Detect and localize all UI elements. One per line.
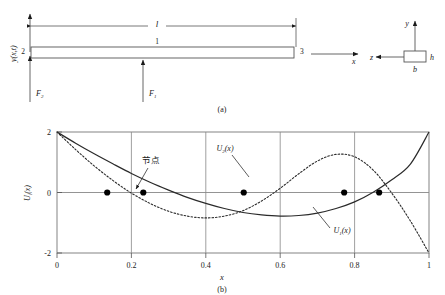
y-axis-title: Ui(x) — [23, 185, 33, 201]
figure-svg: y(x,t) l 1 2 3 x F2 F1 y z h b — [0, 0, 445, 295]
curve-u1-label: U1(x) — [333, 226, 350, 236]
cross-section-z-label: z — [369, 53, 374, 62]
x-tick-label-0-8: 0.8 — [350, 261, 360, 270]
y-tick-label-2: 2 — [47, 128, 51, 137]
beam-node-right-label: 3 — [300, 47, 304, 56]
cross-section-b-label: b — [413, 65, 417, 74]
node-annotation-label: 节点 — [142, 155, 160, 165]
curve-u2-label: U2(x) — [216, 144, 233, 154]
node-marker — [140, 189, 146, 195]
cross-section-y-label: y — [404, 19, 409, 28]
force-f1-label: F1 — [148, 89, 156, 99]
node-marker — [104, 189, 110, 195]
panel-b: 2 0 -2 Ui(x) 0 0.2 0.4 0.6 0.8 1 x — [23, 128, 431, 294]
cross-section-rect — [404, 51, 426, 62]
node-marker — [341, 189, 347, 195]
beam-node-left-label: 2 — [21, 47, 25, 56]
panel-b-caption: (b) — [217, 285, 227, 294]
plot-x-ticks — [57, 253, 429, 258]
cross-section-h-label: h — [430, 53, 434, 62]
beam-element-label: 1 — [155, 37, 159, 46]
beam-body — [31, 47, 294, 58]
x-tick-label-1: 1 — [427, 261, 431, 270]
cross-section-diagram: y z h b — [369, 19, 434, 74]
node-marker — [241, 189, 247, 195]
panel-a: y(x,t) l 1 2 3 x F2 F1 y z h b — [9, 14, 434, 114]
x-tick-label-0-2: 0.2 — [126, 261, 136, 270]
force-f2-label: F2 — [35, 89, 44, 99]
x-tick-label-0-4: 0.4 — [201, 261, 211, 270]
node-marker — [376, 189, 382, 195]
x-tick-label-0-6: 0.6 — [275, 261, 285, 270]
panel-a-caption: (a) — [218, 105, 227, 114]
figure-container: y(x,t) l 1 2 3 x F2 F1 y z h b — [0, 0, 445, 295]
beam-x-axis-label: x — [351, 57, 356, 66]
x-tick-label-0: 0 — [55, 261, 59, 270]
x-axis-title: x — [219, 272, 224, 282]
y-tick-label-0: 0 — [47, 189, 51, 198]
deflection-axis-label: y(x,t) — [9, 45, 18, 63]
y-tick-label-minus2: -2 — [44, 249, 51, 258]
